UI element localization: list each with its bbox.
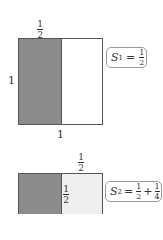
- term-fraction: 1 2: [139, 49, 144, 66]
- left-side-label-1: 1: [8, 74, 15, 87]
- numerator: 1: [78, 153, 84, 161]
- equals-sign: =: [124, 185, 133, 198]
- numerator: 1: [155, 183, 160, 190]
- numerator: 1: [136, 183, 141, 190]
- sum-var: S: [110, 185, 118, 198]
- term-fraction-2: 1 4: [155, 183, 160, 200]
- bottom-side-label-1: 1: [57, 128, 64, 141]
- equals-sign: =: [126, 51, 135, 64]
- numerator: 1: [37, 20, 43, 28]
- shaded-half: [19, 39, 61, 124]
- shaded-half: [19, 174, 61, 214]
- denominator: 2: [63, 196, 69, 204]
- denominator: 2: [78, 164, 84, 172]
- top-half-label-1: 1 2: [37, 20, 43, 39]
- sum-subscript: 1: [119, 54, 123, 62]
- numerator: 1: [139, 49, 144, 56]
- denominator: 2: [136, 193, 141, 200]
- unit-square-2: [18, 173, 103, 214]
- inner-half-label-2: 1 2: [63, 185, 69, 204]
- top-quarter-label-2: 1 2: [78, 153, 84, 172]
- denominator: 4: [155, 193, 160, 200]
- term-fraction-1: 1 2: [136, 183, 141, 200]
- denominator: 2: [139, 59, 144, 66]
- divider-line: [61, 174, 62, 214]
- numerator: 1: [63, 185, 69, 193]
- sum-subscript: 2: [118, 188, 122, 196]
- divider-line: [61, 39, 62, 124]
- sum-label-s1: S1 = 1 2: [106, 47, 147, 68]
- unit-square-1: [18, 38, 103, 125]
- sum-label-s2: S2 = 1 2 + 1 4: [105, 181, 162, 202]
- plus-sign: +: [143, 185, 152, 198]
- sum-var: S: [111, 51, 119, 64]
